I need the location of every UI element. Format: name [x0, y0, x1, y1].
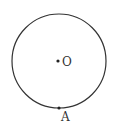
- point-a-label: A: [60, 110, 70, 124]
- center-point: [56, 59, 59, 62]
- circle-diagram: O A: [0, 0, 119, 130]
- center-label: O: [62, 55, 72, 69]
